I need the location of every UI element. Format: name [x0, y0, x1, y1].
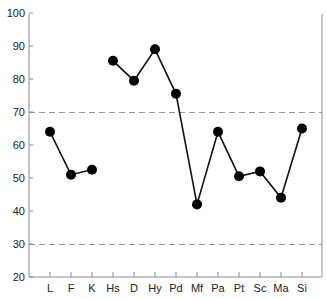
- y-tick-label: 70: [13, 106, 25, 118]
- x-tick-label: K: [88, 282, 96, 294]
- x-tick-label: Pt: [234, 282, 244, 294]
- y-tick-label: 50: [13, 172, 25, 184]
- data-lines: [50, 49, 302, 204]
- y-tick-label: 30: [13, 238, 25, 250]
- data-point-Sc: [255, 166, 265, 176]
- data-point-Hy: [150, 44, 160, 54]
- line-chart: 2030405060708090100 LFKHsDHyPdMfPaPtScMa…: [0, 0, 326, 299]
- data-point-Mf: [192, 199, 202, 209]
- x-tick-label: Hy: [148, 282, 162, 294]
- data-line-segment: [50, 132, 92, 175]
- y-tick-label: 60: [13, 139, 25, 151]
- data-point-Hs: [108, 56, 118, 66]
- x-tick-label: F: [68, 282, 75, 294]
- data-point-Pa: [213, 127, 223, 137]
- y-tick-label: 100: [7, 7, 25, 19]
- x-tick-label: Pd: [169, 282, 182, 294]
- data-point-K: [87, 165, 97, 175]
- data-points: [45, 44, 307, 209]
- axes: [29, 14, 322, 277]
- data-point-Pt: [234, 171, 244, 181]
- x-tick-label: Sc: [254, 282, 267, 294]
- data-point-Pd: [171, 89, 181, 99]
- y-tick-label: 40: [13, 205, 25, 217]
- data-point-F: [66, 170, 76, 180]
- x-tick-label: Pa: [211, 282, 225, 294]
- x-tick-label: D: [130, 282, 138, 294]
- x-tick-label: Ma: [273, 282, 289, 294]
- data-point-Si: [297, 124, 307, 134]
- y-tick-label: 20: [13, 271, 25, 283]
- data-point-Ma: [276, 193, 286, 203]
- x-tick-label: Mf: [191, 282, 204, 294]
- y-tick-label: 80: [13, 73, 25, 85]
- x-tick-label: Si: [297, 282, 307, 294]
- x-axis-ticks: LFKHsDHyPdMfPaPtScMaSi: [47, 272, 307, 294]
- data-point-D: [129, 76, 139, 86]
- y-tick-label: 90: [13, 40, 25, 52]
- data-point-L: [45, 127, 55, 137]
- x-tick-label: Hs: [106, 282, 120, 294]
- x-tick-label: L: [47, 282, 53, 294]
- data-line-segment: [113, 49, 302, 204]
